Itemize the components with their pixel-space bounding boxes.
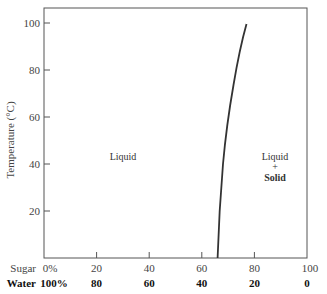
water-tick-labels: 100% 80 60 40 20 0: [40, 277, 310, 289]
water-tick-20: 20: [249, 277, 261, 289]
water-tick-60: 60: [144, 277, 156, 289]
y-tick-20: 20: [29, 205, 41, 217]
y-tick-80: 80: [29, 64, 41, 76]
y-axis-tick-labels: 20 40 60 80 100: [24, 17, 41, 217]
x-axis-ticks: [97, 252, 255, 258]
sugar-tick-80: 80: [249, 262, 261, 274]
water-tick-40: 40: [196, 277, 208, 289]
sugar-tick-40: 40: [144, 262, 156, 274]
sugar-tick-0: 0%: [43, 262, 58, 274]
sugar-tick-60: 60: [196, 262, 208, 274]
sugar-tick-20: 20: [91, 262, 103, 274]
region-label-liquid: Liquid: [110, 151, 137, 162]
phase-diagram: 20 40 60 80 100 Temperature (°C) Sugar 0…: [0, 0, 327, 294]
y-tick-100: 100: [24, 17, 41, 29]
water-tick-100: 100%: [40, 277, 68, 289]
water-row-label: Water: [7, 277, 36, 289]
y-tick-40: 40: [29, 158, 41, 170]
solubility-curve: [218, 24, 247, 258]
sugar-row-label: Sugar: [10, 262, 36, 274]
sugar-tick-labels: 0% 20 40 60 80 100: [43, 262, 319, 274]
y-tick-60: 60: [29, 111, 41, 123]
sugar-tick-100: 100: [302, 262, 319, 274]
region-label-solid: Solid: [264, 172, 286, 183]
water-tick-0: 0: [304, 277, 310, 289]
region-label-plus: +: [272, 161, 278, 172]
y-axis-label: Temperature (°C): [4, 101, 17, 179]
plot-frame: [44, 8, 307, 258]
y-axis-ticks: [44, 23, 50, 211]
water-tick-80: 80: [91, 277, 103, 289]
